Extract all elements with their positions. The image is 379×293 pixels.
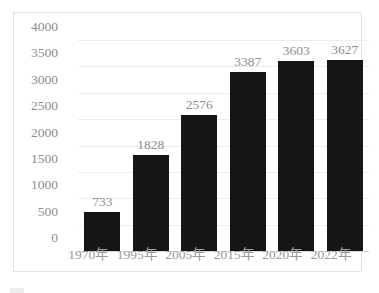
y-axis-tick-label: 1000 (14, 179, 58, 193)
y-axis-tick-label: 0 (14, 231, 58, 245)
gridline (78, 225, 369, 226)
y-axis-tick-label: 3500 (14, 47, 58, 61)
figure-caption-partial (10, 285, 310, 293)
bar-value-label: 733 (92, 195, 112, 209)
gridline (78, 40, 369, 41)
y-axis-tick-label: 2500 (14, 99, 58, 113)
bar-value-label: 2576 (186, 98, 213, 112)
x-axis-category-labels: 1970年1995年2005年2015年2020年2022年 (0, 246, 379, 268)
figure-container: 73318282576338736033627 0500100015002000… (0, 0, 379, 293)
gridline (78, 198, 369, 199)
bar (278, 61, 314, 251)
bar-value-label: 3387 (234, 55, 261, 69)
gridline (78, 172, 369, 173)
bar (133, 155, 169, 251)
bar (230, 72, 266, 251)
x-axis-tick-label: 2005年 (165, 246, 205, 264)
y-axis-tick-label: 3000 (14, 73, 58, 87)
x-axis-tick-label: 2015年 (214, 246, 254, 264)
x-axis-tick-label: 2022年 (311, 246, 351, 264)
gridline (78, 66, 369, 67)
x-axis-tick-label: 1995年 (117, 246, 157, 264)
gridline (78, 93, 369, 94)
y-axis-tick-label: 1500 (14, 152, 58, 166)
gridline (78, 119, 369, 120)
caption-swatch-icon (10, 288, 24, 293)
bar-value-label: 3627 (331, 43, 358, 57)
y-axis-tick-label: 2000 (14, 126, 58, 140)
x-axis-tick-label: 2020年 (262, 246, 302, 264)
gridline (78, 146, 369, 147)
bar (181, 115, 217, 251)
plot-area: 73318282576338736033627 (78, 40, 369, 251)
chart-frame: 73318282576338736033627 (13, 12, 362, 272)
bar (327, 60, 363, 251)
bar-value-label: 3603 (283, 44, 310, 58)
y-axis-tick-label: 4000 (14, 20, 58, 34)
y-axis-tick-label: 500 (14, 205, 58, 219)
bar-value-label: 1828 (137, 138, 164, 152)
x-axis-tick-label: 1970年 (68, 246, 108, 264)
